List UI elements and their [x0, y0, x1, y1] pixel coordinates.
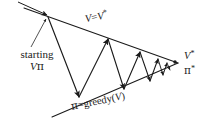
apex-v-star-mark: * [190, 49, 194, 58]
starting-label-line2: Vπ [6, 61, 68, 73]
apex-pi-symbol: π [184, 64, 191, 76]
zigzag-segment-7 [158, 59, 163, 75]
starting-label-line1: starting [21, 48, 54, 60]
zigzag-segment-4 [124, 52, 140, 89]
apex-v-star-label: V* [184, 50, 195, 61]
starting-leader-arrow [31, 19, 46, 47]
zigzag-segment-3 [108, 39, 124, 89]
starting-v-symbol: V [30, 60, 37, 72]
initial-entry-arrow [18, 2, 47, 15]
apex-pi-star-label: π* [184, 65, 195, 76]
policy-iteration-figure: starting Vπ V=V* π=greedy(V) V* π* [0, 0, 206, 122]
zigzag-segment-6 [150, 59, 158, 81]
zigzag-segment-2 [79, 39, 108, 97]
starting-pi-symbol: π [37, 60, 44, 73]
apex-pi-star-mark: * [191, 64, 195, 73]
starting-annotation: starting Vπ [6, 49, 68, 72]
apex-convergence-dot [173, 60, 176, 63]
